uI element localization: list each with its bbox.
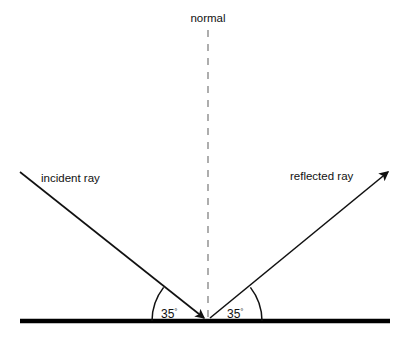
angle-incidence-degree-symbol: °	[174, 307, 177, 316]
reflected-ray-label: reflected ray	[290, 170, 354, 182]
reflection-diagram: normal incident ray reflected ray 35° 35…	[0, 0, 410, 340]
incident-ray-label: incident ray	[41, 172, 100, 184]
angle-reflection-value: 35	[227, 307, 241, 321]
angle-incidence-value: 35	[161, 307, 175, 321]
normal-label: normal	[190, 12, 225, 24]
angle-reflection-degree-symbol: °	[240, 307, 243, 316]
diagram-canvas: normal incident ray reflected ray 35° 35…	[0, 0, 410, 340]
